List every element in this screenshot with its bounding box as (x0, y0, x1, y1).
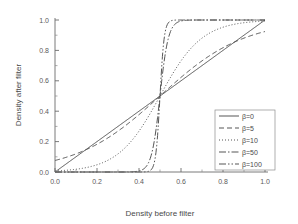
x-tick-label: 1.0 (260, 178, 270, 185)
y-tick-label: 0.6 (39, 77, 49, 84)
x-tick-label: 0.6 (176, 178, 186, 185)
legend-label: β=5 (242, 125, 254, 133)
x-tick-label: 0.2 (92, 178, 102, 185)
y-tick-label: 1.0 (39, 17, 49, 24)
density-filter-chart: 0.00.20.40.60.81.0 0.00.20.40.60.81.0 De… (0, 0, 298, 224)
y-tick-label: 0.8 (39, 47, 49, 54)
x-tick-label: 0.4 (134, 178, 144, 185)
y-axis-title: Density after filter (14, 64, 23, 127)
legend-label: β=100 (242, 161, 262, 169)
legend-label: β=10 (242, 137, 258, 145)
y-tick-label: 0.4 (39, 108, 49, 115)
chart-legend[interactable]: β=0β=5β=10β=50β=100 (215, 110, 275, 170)
x-tick-label: 0.8 (218, 178, 228, 185)
x-axis-title: Density before filter (126, 209, 195, 218)
legend-label: β=50 (242, 149, 258, 157)
y-tick-label: 0.2 (39, 138, 49, 145)
y-tick-label: 0.0 (39, 169, 49, 176)
x-tick-label: 0.0 (50, 178, 60, 185)
legend-label: β=0 (242, 113, 254, 121)
